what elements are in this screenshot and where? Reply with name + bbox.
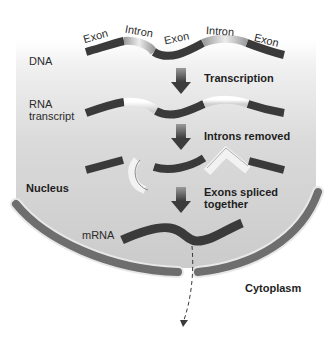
step-label-exons-spliced-line2: together xyxy=(204,198,248,210)
dna-label: DNA xyxy=(29,55,52,67)
cytoplasm-label: Cytoplasm xyxy=(245,282,301,294)
segment-label-intron-2: Intron xyxy=(206,24,235,38)
step-label-introns-removed: Introns removed xyxy=(204,130,290,142)
step-label-transcription: Transcription xyxy=(204,72,274,84)
nucleus-label: Nucleus xyxy=(26,182,69,194)
splicing-diagram xyxy=(0,0,331,348)
rna-transcript-label-line1: RNA xyxy=(29,98,52,110)
mrna-label: mRNA xyxy=(82,229,114,241)
step-label-exons-spliced-line1: Exons spliced xyxy=(204,186,278,198)
rna-transcript-label-line2: transcript xyxy=(29,110,74,122)
